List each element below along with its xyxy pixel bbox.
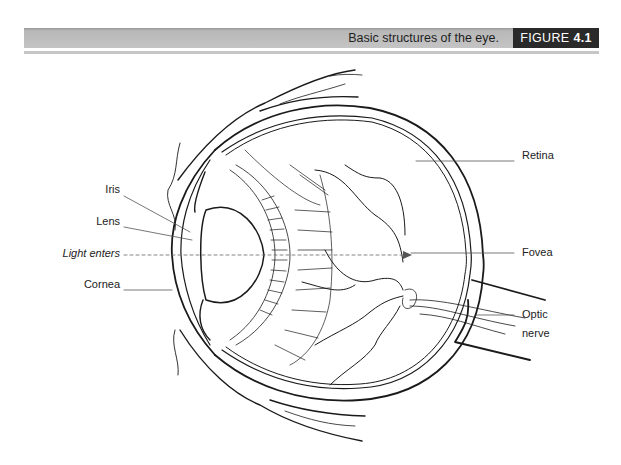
label-cornea: Cornea	[60, 278, 120, 290]
label-optic: Optic	[522, 308, 548, 320]
label-retina: Retina	[522, 149, 554, 161]
eye-diagram	[0, 0, 621, 465]
label-iris: Iris	[60, 183, 120, 195]
label-lens: Lens	[60, 215, 120, 227]
label-nerve: nerve	[522, 327, 550, 339]
label-fovea: Fovea	[522, 246, 553, 258]
label-light-enters: Light enters	[30, 247, 120, 259]
